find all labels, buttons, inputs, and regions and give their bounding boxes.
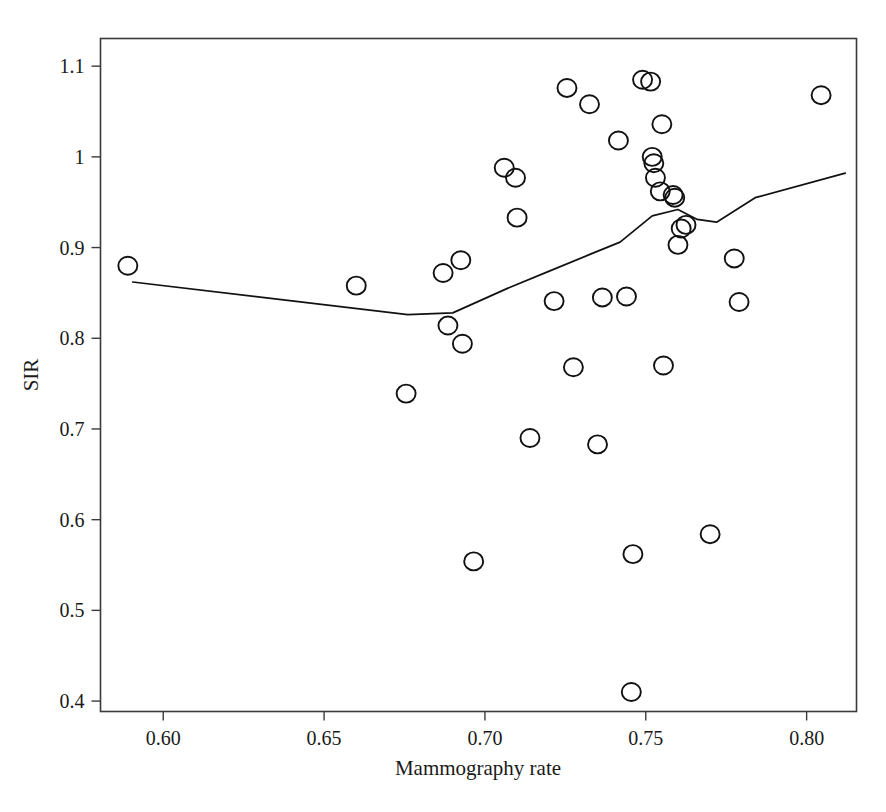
data-point (677, 216, 696, 234)
data-point (397, 385, 416, 403)
x-tick-label: 0.70 (467, 727, 502, 749)
data-point (623, 545, 642, 563)
data-point (508, 209, 527, 227)
data-point (668, 236, 687, 254)
data-point (347, 277, 366, 295)
data-point (580, 95, 599, 113)
y-tick-label: 0.9 (60, 237, 85, 259)
x-axis-ticks: 0.600.650.700.750.80 (146, 712, 824, 749)
y-tick-label: 0.7 (60, 418, 85, 440)
data-point (520, 429, 539, 447)
data-point (557, 79, 576, 97)
y-tick-label: 0.4 (60, 690, 85, 712)
data-point (588, 435, 607, 453)
x-tick-label: 0.75 (628, 727, 663, 749)
data-point (730, 293, 749, 311)
data-point (495, 159, 514, 177)
data-point (464, 552, 483, 570)
y-axis-title: SIR (19, 359, 43, 392)
data-point (654, 356, 673, 374)
x-tick-label: 0.65 (307, 727, 342, 749)
data-point (453, 335, 472, 353)
data-point (564, 358, 583, 376)
scatter-plot: 0.40.50.60.70.80.911.1 0.600.650.700.750… (0, 0, 886, 812)
y-tick-label: 0.6 (60, 509, 85, 531)
data-point (617, 288, 636, 306)
data-point (652, 115, 671, 133)
y-axis-ticks: 0.40.50.60.70.80.911.1 (60, 55, 101, 712)
x-tick-label: 0.80 (789, 727, 824, 749)
data-point (622, 683, 641, 701)
y-tick-label: 1.1 (60, 55, 85, 77)
y-tick-label: 0.8 (60, 327, 85, 349)
data-point (506, 169, 525, 187)
data-point (438, 317, 457, 335)
data-point (434, 264, 453, 282)
data-point (672, 220, 691, 238)
data-point (609, 132, 628, 150)
data-point (643, 148, 662, 166)
data-point (725, 249, 744, 267)
y-tick-label: 1 (75, 146, 85, 168)
figure-container: 0.40.50.60.70.80.911.1 0.600.650.700.750… (0, 0, 886, 812)
data-point (812, 86, 831, 104)
data-point (118, 257, 137, 275)
data-point (593, 288, 612, 306)
x-axis-title: Mammography rate (395, 756, 561, 780)
plot-frame (101, 39, 857, 712)
data-points-group (118, 71, 830, 701)
data-point (545, 292, 564, 310)
data-point (701, 525, 720, 543)
x-tick-label: 0.60 (146, 727, 181, 749)
data-point (451, 251, 470, 269)
y-tick-label: 0.5 (60, 599, 85, 621)
